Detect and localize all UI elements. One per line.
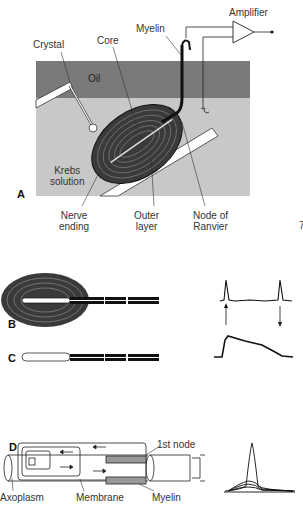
crystal-tip	[89, 124, 97, 132]
panel-label-d: D	[9, 441, 17, 453]
label-core: Core	[97, 35, 119, 46]
amplifier-output	[270, 30, 273, 33]
panel-label-a: A	[17, 188, 25, 200]
amplifier-symbol	[233, 21, 254, 43]
pacinian-corpuscle-diagram	[0, 0, 303, 506]
fiber-b	[70, 297, 159, 304]
current-arrows	[60, 445, 106, 473]
label-axoplasm: Axoplasm	[0, 492, 44, 503]
label-1st-node: 1st node	[157, 439, 195, 450]
oil-layer	[36, 61, 250, 98]
label-oil: Oil	[88, 73, 100, 84]
wire-1	[186, 27, 233, 38]
panel-label-b: B	[8, 318, 16, 330]
label-myelin-a: Myelin	[136, 23, 165, 34]
fiber-c	[70, 354, 159, 361]
trace-c	[214, 336, 293, 357]
trace-d	[224, 443, 295, 492]
panel-label-c: C	[8, 352, 16, 364]
label-node-of-ranvier: Node of Ranvier	[193, 210, 228, 232]
label-outer-layer: Outer layer	[134, 210, 159, 232]
label-nerve-ending: Nerve ending	[59, 210, 89, 232]
trace-b	[220, 280, 292, 301]
label-membrane: Membrane	[76, 492, 124, 503]
decapsulated-ending	[22, 353, 70, 361]
label-myelin-d: Myelin	[152, 492, 181, 503]
label-crystal: Crystal	[33, 39, 64, 50]
label-krebs-solution: Krebs solution	[50, 165, 84, 187]
label-amplifier: Amplifier	[229, 7, 268, 18]
edge-mark: 7	[299, 220, 303, 231]
